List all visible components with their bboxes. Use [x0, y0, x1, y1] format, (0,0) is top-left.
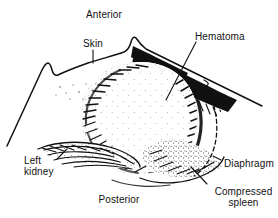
splenic-hematoma-figure: Anterior Skin Hematoma Left kidney Poste… [0, 0, 278, 218]
label-skin: Skin [74, 38, 112, 49]
label-compressed-spleen-line1: Compressed [209, 186, 278, 197]
label-anterior: Anterior [78, 9, 130, 20]
label-posterior: Posterior [93, 194, 145, 205]
label-hematoma: Hematoma [195, 31, 245, 42]
label-left-kidney: Left kidney [24, 155, 54, 177]
label-diaphragm: Diaphragm [224, 158, 274, 169]
label-compressed-spleen-line2: spleen [209, 197, 278, 208]
label-left-kidney-line2: kidney [24, 166, 54, 177]
label-compressed-spleen: Compressed spleen [209, 186, 278, 208]
label-left-kidney-line1: Left [24, 155, 54, 166]
